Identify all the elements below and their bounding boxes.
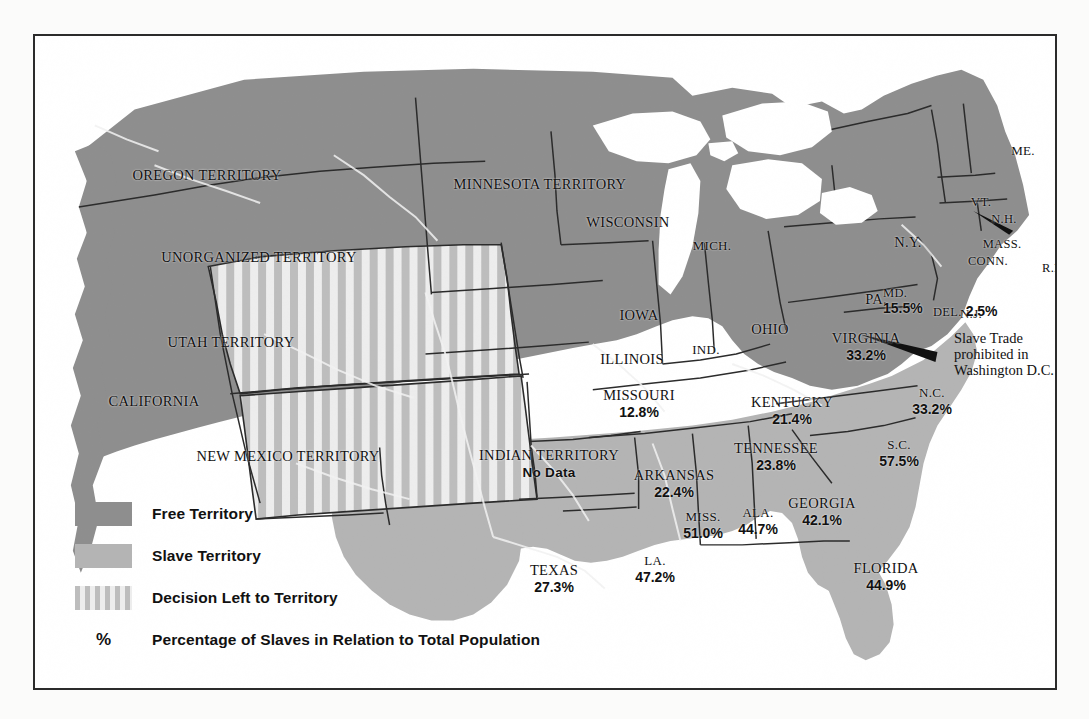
slave-territory-swatch	[75, 544, 132, 568]
dc-note-line-1: Slave Trade	[954, 330, 1054, 346]
dc-note-line-3: Washington D.C.	[954, 362, 1054, 378]
map-frame: OREGON TERRITORY UNORGANIZED TERRITORY M…	[33, 34, 1057, 690]
free-territory-swatch	[75, 502, 132, 526]
percent-symbol-icon: %	[75, 630, 132, 650]
decision-left-swatch	[75, 586, 132, 610]
legend-item-decision-left: Decision Left to Territory	[75, 582, 540, 613]
legend-item-percentage: % Percentage of Slaves in Relation to To…	[75, 624, 540, 655]
legend-label-percentage: Percentage of Slaves in Relation to Tota…	[152, 631, 540, 649]
legend-label-free-territory: Free Territory	[152, 505, 253, 523]
legend-label-slave-territory: Slave Territory	[152, 547, 261, 565]
dc-note-line-2: prohibited in	[954, 346, 1054, 362]
map-legend: Free Territory Slave Territory Decision …	[75, 498, 540, 666]
dc-slave-trade-annotation: Slave Trade prohibited in Washington D.C…	[954, 330, 1054, 379]
legend-label-decision-left: Decision Left to Territory	[152, 589, 338, 607]
legend-item-free-territory: Free Territory	[75, 498, 540, 529]
legend-item-slave-territory: Slave Territory	[75, 540, 540, 571]
